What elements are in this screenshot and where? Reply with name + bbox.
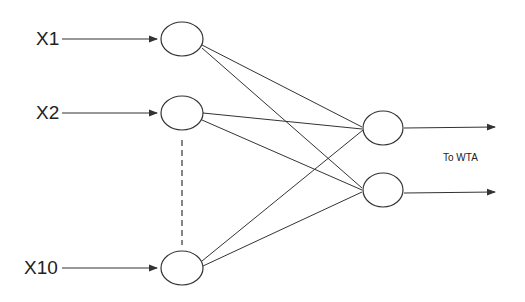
input-node-x1: [161, 22, 203, 56]
input-label-x10: X10: [24, 257, 58, 279]
output-node-2: [363, 173, 403, 207]
input-node-x2: [161, 96, 203, 130]
input-label-x1: X1: [36, 28, 59, 50]
connections: [202, 45, 363, 266]
output-arrow-2: [404, 192, 495, 193]
input-node-x10: [161, 251, 203, 285]
neural-network-diagram: X1 X2 X10 To WTA: [0, 0, 525, 302]
output-node-1: [363, 111, 403, 145]
output-arrow-1: [404, 127, 495, 128]
network-graph: [0, 0, 525, 302]
input-label-x2: X2: [36, 102, 59, 124]
output-label: To WTA: [443, 152, 478, 163]
